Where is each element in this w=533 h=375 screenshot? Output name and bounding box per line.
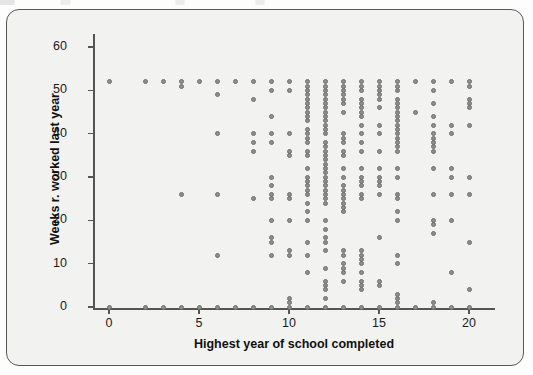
figure-page: 0102030405060 05101520 Weeks r. worked l… (0, 0, 533, 375)
data-point (305, 218, 310, 223)
data-point (305, 118, 310, 123)
data-point (305, 201, 310, 206)
data-point (449, 192, 454, 197)
data-point (269, 114, 274, 119)
data-point (467, 105, 472, 110)
data-point (323, 305, 328, 310)
data-point (341, 209, 346, 214)
data-point (269, 79, 274, 84)
data-point (179, 192, 184, 197)
data-point (323, 296, 328, 301)
data-point (323, 287, 328, 292)
data-point (359, 114, 364, 119)
data-point (431, 192, 436, 197)
data-point (449, 166, 454, 171)
data-point (269, 140, 274, 145)
data-point (467, 287, 472, 292)
data-point (341, 101, 346, 106)
data-point (323, 131, 328, 136)
data-point (323, 227, 328, 232)
data-point (377, 283, 382, 288)
x-tick-label-10: 10 (269, 316, 309, 330)
y-tick-50 (88, 90, 93, 92)
data-point (215, 131, 220, 136)
y-tick-40 (88, 133, 93, 135)
data-point (377, 149, 382, 154)
data-point (431, 305, 436, 310)
data-point (161, 79, 166, 84)
data-point (377, 235, 382, 240)
data-point (341, 153, 346, 158)
y-tick-60 (88, 46, 93, 48)
data-point (215, 92, 220, 97)
x-axis-title: Highest year of school completed (93, 337, 495, 351)
data-point (269, 175, 274, 180)
x-tick-label-5: 5 (179, 316, 219, 330)
data-point (359, 140, 364, 145)
data-point (215, 79, 220, 84)
data-point (359, 270, 364, 275)
data-point (377, 305, 382, 310)
data-point (287, 305, 292, 310)
data-point (467, 240, 472, 245)
data-point (449, 305, 454, 310)
data-point (305, 240, 310, 245)
data-point (323, 240, 328, 245)
data-point (359, 287, 364, 292)
data-point (395, 218, 400, 223)
data-point (143, 79, 148, 84)
data-point (395, 88, 400, 93)
data-point (251, 149, 256, 154)
data-point (395, 209, 400, 214)
x-tick-15 (378, 309, 380, 314)
data-point (449, 123, 454, 128)
data-point (431, 123, 436, 128)
data-point (305, 192, 310, 197)
data-point (323, 218, 328, 223)
data-point (197, 79, 202, 84)
data-point (305, 253, 310, 258)
data-point (179, 84, 184, 89)
data-point (431, 114, 436, 119)
data-point (431, 166, 436, 171)
data-point (431, 222, 436, 227)
data-point (269, 253, 274, 258)
y-tick-0 (88, 306, 93, 308)
data-point (269, 88, 274, 93)
data-point (377, 123, 382, 128)
data-point (341, 175, 346, 180)
y-tick-10 (88, 263, 93, 265)
data-point (467, 305, 472, 310)
data-point (395, 175, 400, 180)
y-tick-20 (88, 220, 93, 222)
data-point (323, 201, 328, 206)
data-point (251, 131, 256, 136)
data-point (287, 79, 292, 84)
data-point (359, 166, 364, 171)
data-point (107, 79, 112, 84)
data-point (305, 140, 310, 145)
data-point (341, 140, 346, 145)
y-axis-title: Weeks r. worked last year (48, 44, 62, 294)
data-point (413, 79, 418, 84)
data-point (359, 149, 364, 154)
data-point (395, 196, 400, 201)
data-point (431, 88, 436, 93)
data-point (449, 175, 454, 180)
data-point (269, 183, 274, 188)
data-point (467, 175, 472, 180)
cropped-text-sliver (0, 0, 533, 5)
data-point (215, 192, 220, 197)
data-point (179, 305, 184, 310)
data-point (305, 270, 310, 275)
x-tick-label-15: 15 (359, 316, 399, 330)
data-point (395, 261, 400, 266)
data-point (359, 261, 364, 266)
data-point (359, 123, 364, 128)
x-tick-0 (108, 309, 110, 314)
data-point (431, 149, 436, 154)
data-point (305, 209, 310, 214)
scatter-plot-area: 0102030405060 05101520 Weeks r. worked l… (7, 10, 525, 367)
data-point (161, 305, 166, 310)
data-point (431, 79, 436, 84)
